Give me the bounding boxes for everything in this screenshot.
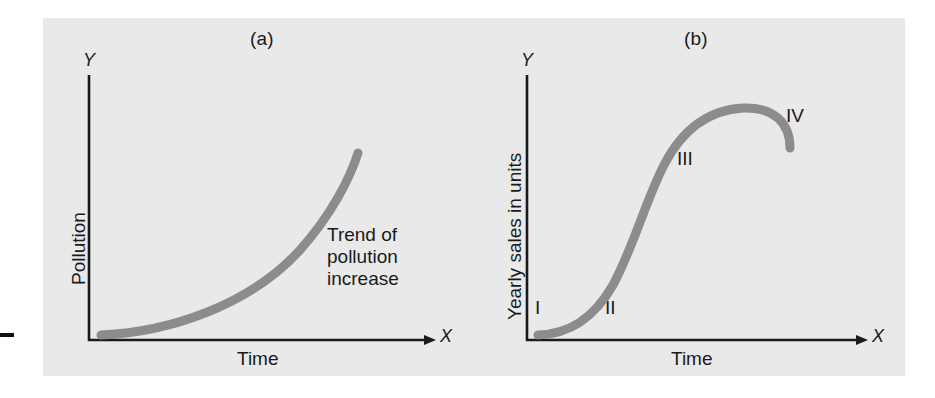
panel-b-plot [468,0,935,398]
panel-a: (a) Y X Pollution Time Trend of pollutio… [0,0,468,398]
panel-b-life-cycle-curve [538,108,790,335]
panel-a-pollution-trend-curve [101,153,358,335]
panel-a-plot [0,0,468,398]
figure-page: (a) Y X Pollution Time Trend of pollutio… [0,0,935,398]
panel-b-x-axis-arrowhead [856,335,868,345]
panel-b: (b) Y X Yearly sales in units Time I II … [468,0,935,398]
panel-a-x-axis-arrowhead [424,335,436,345]
